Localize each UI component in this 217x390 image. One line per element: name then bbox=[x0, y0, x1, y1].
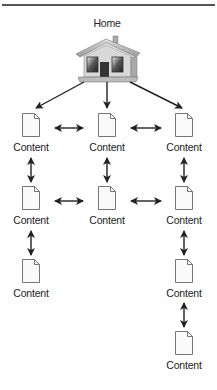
document-icon bbox=[175, 259, 193, 283]
arrow-home-to-col3 bbox=[130, 82, 182, 108]
arrow-home-to-col1 bbox=[36, 82, 84, 108]
document-icon bbox=[175, 113, 193, 137]
content-node-label: Content bbox=[1, 141, 61, 153]
content-node-label: Content bbox=[154, 141, 214, 153]
content-node-label: Content bbox=[154, 287, 214, 299]
document-icon bbox=[22, 113, 40, 137]
content-node-label: Content bbox=[1, 214, 61, 226]
content-node-label: Content bbox=[1, 287, 61, 299]
content-node-label: Content bbox=[154, 214, 214, 226]
content-node-label: Content bbox=[77, 141, 137, 153]
document-icon bbox=[22, 186, 40, 210]
house-icon bbox=[76, 36, 140, 82]
document-icon bbox=[175, 331, 193, 355]
document-icon bbox=[22, 259, 40, 283]
document-icon bbox=[98, 113, 116, 137]
document-icon bbox=[175, 186, 193, 210]
document-icon bbox=[98, 186, 116, 210]
content-node-label: Content bbox=[77, 214, 137, 226]
content-node-label: Content bbox=[154, 359, 214, 371]
